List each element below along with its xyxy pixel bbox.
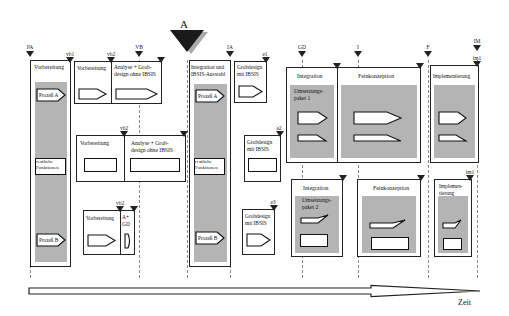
package2-label: Umsetzungs-paket 2 xyxy=(302,197,336,211)
row2-vb2-marker-icon xyxy=(120,131,128,137)
package1-implementation-marker-icon xyxy=(473,61,481,67)
integration-process-a-label: Prozeß A xyxy=(198,93,217,100)
row1-analysis-label: Analyse + Grob-design ohne IBSIS xyxy=(114,64,160,78)
row3-prep-arrow-icon xyxy=(87,234,117,247)
milestone-label-im: IM xyxy=(471,38,483,44)
package1-integration-arrow-icon xyxy=(297,111,329,125)
milestone-line-f xyxy=(428,60,429,278)
milestone-marker-ia-icon xyxy=(226,51,234,57)
row2-vb2-label: vb2 xyxy=(117,125,131,131)
vb1-label: vb1 xyxy=(63,51,77,57)
milestone-label-a: A xyxy=(180,18,188,30)
column-preparation-title: Vorbereitung xyxy=(34,64,64,71)
package2-integration-title: Integration xyxy=(303,185,328,192)
row3-vb2-label: vb2 xyxy=(113,200,127,206)
package1-implementation-arrow-icon xyxy=(438,111,468,125)
milestone-line-a xyxy=(187,60,188,278)
package2-implementation-im-label: im1 xyxy=(463,169,477,175)
row1-vb2-label: vb2 xyxy=(104,51,118,57)
package2-feinkonzeption-slant-icon xyxy=(369,219,407,229)
timeline-label: Zeit xyxy=(458,298,471,307)
package1-feinkonzeption-arrow-icon xyxy=(353,111,403,125)
row2-end-marker-icon xyxy=(180,131,188,137)
row2-analysis-label: Analyse + Grob-design ohne IBSIS xyxy=(131,140,183,154)
row1-vb2-marker-icon xyxy=(107,57,115,63)
package2-implementation-marker-icon xyxy=(466,175,474,181)
rest-functions-label: restliche Funktionen xyxy=(36,159,66,171)
package1-integration-title: Integration xyxy=(297,73,322,80)
timeline-arrow-icon xyxy=(28,285,483,297)
row1-end-marker-icon xyxy=(157,57,165,63)
vb1-marker-icon xyxy=(66,57,74,63)
milestone-label-vb: VB xyxy=(133,44,145,50)
package1-feinkonzeption-end-marker-icon xyxy=(416,63,424,69)
grobdesign-1-marker-icon xyxy=(262,57,270,63)
process-a-label: Prozeß A xyxy=(39,92,58,99)
row1-analysis-arrow-icon xyxy=(115,88,159,100)
milestone-a-triangle-icon xyxy=(168,30,210,56)
grobdesign-1-label: Grobdesign mit IBSIS xyxy=(237,64,267,78)
column-integration-title: Integration und IBSIS-Auswahl xyxy=(191,64,231,78)
package2-implementation-slant-icon xyxy=(442,220,462,229)
row2-analysis-rect xyxy=(130,158,180,172)
package1-integration-slant-icon xyxy=(297,134,329,143)
package1-implementation-slant-icon xyxy=(438,134,468,143)
milestone-label-f: F xyxy=(422,44,434,50)
milestone-marker-vb-icon xyxy=(135,51,143,57)
row3-vb2-marker-icon xyxy=(116,206,124,212)
package2-implementation-rect xyxy=(443,238,462,250)
integration-process-b-label: Prozeß B xyxy=(198,235,217,242)
row3-agd-shape-icon xyxy=(123,233,133,249)
row3-agd-label: A+ GD xyxy=(122,214,133,228)
grobdesign-2-marker-icon xyxy=(276,131,284,137)
package2-feinkonzeption-rect xyxy=(371,237,409,250)
row3-prep-label: Vorbereitung xyxy=(86,215,114,222)
row1-prep-label: Vorbereitung xyxy=(77,65,106,72)
row3-end-marker-icon xyxy=(130,206,138,212)
package2-integration-slant-icon xyxy=(300,214,330,224)
row2-prep-label: Vorbereitung xyxy=(80,140,109,147)
process-b-label: Prozeß B xyxy=(39,237,58,244)
milestone-marker-gd-icon xyxy=(298,51,306,57)
grobdesign-1-arrow-icon xyxy=(238,85,264,98)
milestone-label-ia: IA xyxy=(224,44,236,50)
grobdesign-2-e-label: e2 xyxy=(274,125,284,131)
package1-feinkonzeption-title: Feinkonzeption xyxy=(358,73,394,80)
package1-implementation-im-label: im1 xyxy=(470,55,484,61)
package1-feinkonzeption-slant-icon xyxy=(353,134,403,143)
package2-feinkonzeption-end-marker-icon xyxy=(417,175,425,181)
milestone-label-pa: PA xyxy=(24,44,36,50)
package2-implementation-title: Implemen-tierung xyxy=(439,183,469,197)
row1-prep-arrow-icon xyxy=(78,88,108,100)
grobdesign-2-rect xyxy=(248,158,277,172)
grobdesign-3-marker-icon xyxy=(270,205,278,211)
package2-integration-rect xyxy=(300,234,328,247)
grobdesign-3-label: Grobdesign mit IBSIS xyxy=(245,213,275,227)
grobdesign-1-e-label: e1 xyxy=(260,51,270,57)
milestone-marker-f-icon xyxy=(424,51,432,57)
package1-integration-end-marker-icon xyxy=(333,63,341,69)
milestone-label-i: I xyxy=(352,44,364,50)
grobdesign-2-label: Grobdesign mit IBSIS xyxy=(247,139,279,153)
package2-feinkonzeption-title: Feinkonzeption xyxy=(373,185,409,192)
package2-integration-end-marker-icon xyxy=(339,175,347,181)
milestone-marker-im-icon xyxy=(473,45,481,51)
package1-label: Umsetzungs-paket 1 xyxy=(294,88,328,102)
grobdesign-3-arrow-icon xyxy=(246,233,272,247)
grobdesign-3-e-label: e3 xyxy=(268,199,278,205)
integration-rest-label: restliche Funktionen xyxy=(195,159,225,171)
row2-prep-rect xyxy=(84,158,117,172)
package1-implementation-title: Implementierung xyxy=(433,73,470,80)
milestone-label-gd: GD xyxy=(296,44,308,50)
milestone-marker-i-icon xyxy=(354,51,362,57)
milestone-marker-pa-icon xyxy=(26,51,34,57)
